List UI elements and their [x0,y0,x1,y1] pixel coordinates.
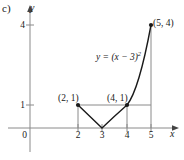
y-tick-label-4: 4 [14,20,25,30]
y-axis-label: y [30,2,34,13]
point-label-2-1: (2, 1) [58,93,79,103]
point-marker-4-1 [125,103,129,107]
x-tick-label-2: 2 [72,130,84,140]
x-axis-label: x [170,128,174,139]
parabola-curve [78,25,151,128]
equation-label: y = (x − 3)2 [96,48,141,63]
x-tick-label-4: 4 [121,130,133,140]
graph-figure: c) y x 4 1 0 2 3 4 5 (2, 1) (4 [0,0,184,160]
equation-exponent: 2 [138,50,141,57]
y-tick-label-1: 1 [14,100,25,110]
point-label-4-1: (4, 1) [107,93,128,103]
point-label-5-4: (5, 4) [153,18,174,28]
x-tick-label-3: 3 [96,130,108,140]
equation-text: y = (x − 3) [96,52,138,62]
x-tick-label-5: 5 [145,130,157,140]
origin-label: 0 [16,130,27,140]
point-marker-2-1 [76,103,80,107]
